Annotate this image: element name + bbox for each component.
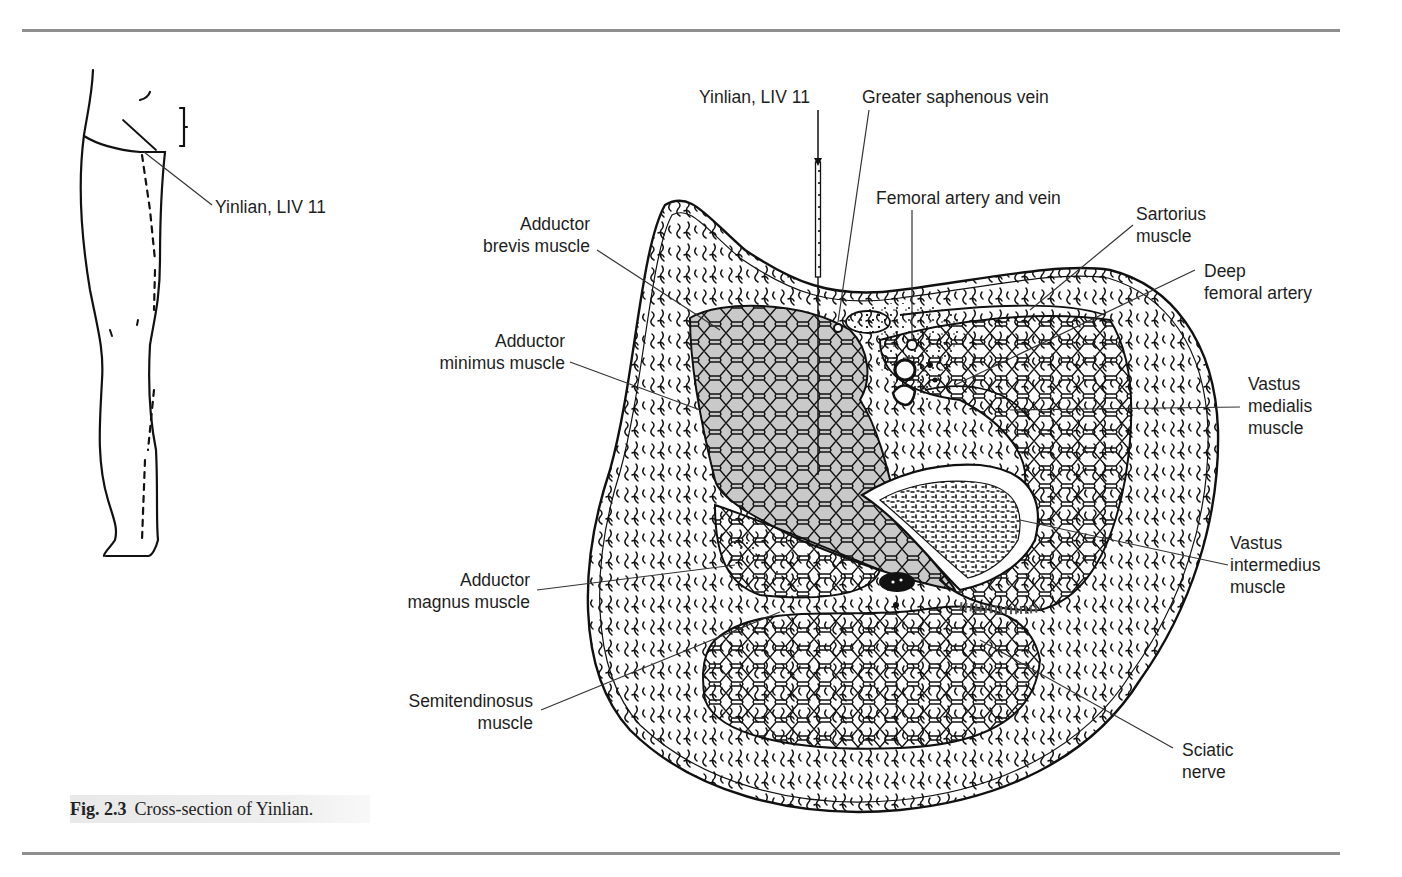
needle-point-label: Yinlian, LIV 11 [699, 86, 810, 108]
figure-caption: Fig. 2.3Cross-section of Yinlian. [70, 795, 370, 823]
deep-femoral-artery-label: Deep femoral artery [1204, 260, 1312, 304]
semitendinosus-label: Semitendinosus muscle [363, 690, 533, 734]
vastus-intermedius-label: Vastus intermedius muscle [1230, 532, 1320, 598]
adductor-brevis-label: Adductor brevis muscle [420, 213, 590, 257]
vastus-medialis-label: Vastus medialis muscle [1248, 373, 1312, 439]
leader-line [144, 152, 212, 205]
leg-point-label: Yinlian, LIV 11 [215, 196, 326, 218]
greater-saphenous-vein-label: Greater saphenous vein [862, 86, 1049, 108]
sciatic-nerve-label: Sciatic nerve [1182, 739, 1234, 783]
femoral-artery-vein-label: Femoral artery and vein [876, 187, 1061, 209]
caption-text: Cross-section of Yinlian. [135, 799, 314, 819]
leg-sketch [81, 70, 187, 556]
sartorius-label: Sartorius muscle [1136, 203, 1206, 247]
adductor-minimus-label: Adductor minimus muscle [395, 330, 565, 374]
adductor-magnus-label: Adductor magnus muscle [360, 569, 530, 613]
figure-number: Fig. 2.3 [70, 799, 127, 819]
posterior-muscle [703, 607, 1040, 749]
